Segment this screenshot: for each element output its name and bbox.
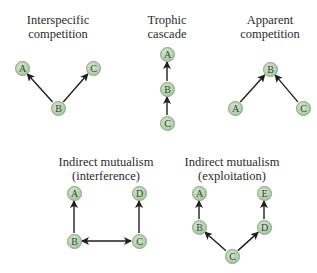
interaction-diagrams-figure: Interspecific competition Trophic cascad… [0, 0, 317, 273]
title-line-2: (exploitation) [185, 169, 280, 183]
species-node-b: B [192, 220, 207, 235]
title-line-2: cascade [147, 27, 186, 41]
species-node-c: C [296, 101, 311, 116]
species-node-d: D [132, 186, 147, 201]
species-node-a: A [160, 47, 175, 62]
edge-b-c [63, 74, 87, 102]
title-line-2: competition [240, 27, 300, 41]
edge-a-b [240, 75, 264, 102]
diagram-title-indirect-mutualism-interference: Indirect mutualism (interference) [59, 155, 154, 183]
title-line-2: (interference) [59, 169, 154, 183]
species-node-a: A [192, 186, 207, 201]
title-line-1: Trophic [147, 13, 186, 27]
diagram-title-interspecific-competition: Interspecific competition [27, 13, 89, 41]
species-node-b: B [160, 82, 175, 97]
species-node-a: A [15, 61, 30, 76]
species-node-d: D [257, 220, 272, 235]
edge-c-b [275, 75, 298, 102]
edge-c-b [205, 232, 226, 250]
title-line-2: competition [27, 27, 89, 41]
title-line-1: Indirect mutualism [59, 155, 154, 169]
diagram-title-indirect-mutualism-exploitation: Indirect mutualism (exploitation) [185, 155, 280, 183]
species-node-b: B [263, 62, 278, 77]
edge-b-a [27, 74, 52, 102]
diagram-title-trophic-cascade: Trophic cascade [147, 13, 186, 41]
species-node-b: B [67, 234, 82, 249]
species-node-a: A [228, 101, 243, 116]
title-line-1: Indirect mutualism [185, 155, 280, 169]
title-line-1: Apparent [240, 13, 300, 27]
title-line-1: Interspecific [27, 13, 89, 27]
diagram-title-apparent-competition: Apparent competition [240, 13, 300, 41]
species-node-a: A [67, 186, 82, 201]
species-node-c: C [86, 61, 101, 76]
species-node-b: B [51, 101, 66, 116]
species-node-c: C [132, 234, 147, 249]
edge-c-d [238, 232, 258, 250]
species-node-e: E [257, 186, 272, 201]
species-node-c: C [160, 116, 175, 131]
species-node-c: C [225, 249, 240, 264]
